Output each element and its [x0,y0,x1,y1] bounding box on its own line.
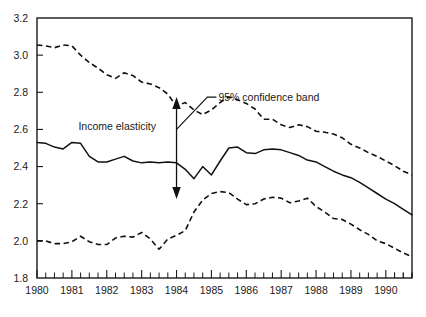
chart-container: 3.23.02.82.62.42.22.01.8 198019811982198… [0,0,426,317]
y-axis-tick-label: 2.8 [13,86,28,98]
y-axis: 3.23.02.82.62.42.22.01.8 [13,12,43,284]
annotation-group: Income elasticity95% confidence band [78,91,319,199]
y-axis-tick-label: 2.6 [13,123,28,135]
confidence-band-label: 95% confidence band [218,91,319,103]
y-axis-tick-label: 2.0 [13,235,28,247]
income-elasticity-chart: 3.23.02.82.62.42.22.01.8 198019811982198… [0,0,426,317]
plot-frame [37,18,412,278]
y-axis-tick-label: 1.8 [13,272,28,284]
arrow-head-up [172,97,180,109]
x-axis-tick-label: 1987 [270,284,294,296]
x-axis-tick-label: 1990 [374,284,398,296]
x-axis: 1980198119821983198419851986198719881989… [25,270,412,296]
income-elasticity-label: Income elasticity [78,120,156,132]
x-axis-tick-label: 1986 [235,284,259,296]
data-series-group [37,45,412,257]
x-axis-tick-label: 1980 [25,284,49,296]
x-axis-tick-label: 1983 [130,284,154,296]
confidence-band-leader-line [177,97,217,129]
x-axis-tick-label: 1984 [165,284,189,296]
series-income-elasticity [37,142,412,214]
arrow-head-down [172,187,180,199]
x-axis-tick-label: 1981 [60,284,84,296]
confidence-band-arrow [172,97,180,199]
y-axis-tick-label: 2.4 [13,160,28,172]
y-axis-tick-label: 3.0 [13,49,28,61]
series-confidence-lower [37,192,412,257]
x-axis-tick-label: 1985 [200,284,224,296]
y-axis-tick-label: 3.2 [13,12,28,24]
x-axis-tick-label: 1988 [304,284,328,296]
plot-area-border [37,18,412,278]
x-axis-tick-label: 1982 [95,284,119,296]
y-axis-tick-label: 2.2 [13,198,28,210]
x-axis-tick-label: 1989 [339,284,363,296]
